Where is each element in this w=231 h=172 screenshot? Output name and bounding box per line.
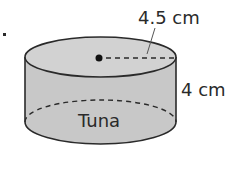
radius-label: 4.5 cm — [138, 7, 200, 28]
center-point — [96, 55, 103, 62]
item-marker — [3, 33, 6, 36]
tuna-cylinder-diagram: 4.5 cm 4 cm Tuna — [0, 0, 231, 172]
height-label: 4 cm — [181, 79, 226, 100]
cylinder-label: Tuna — [77, 110, 120, 131]
